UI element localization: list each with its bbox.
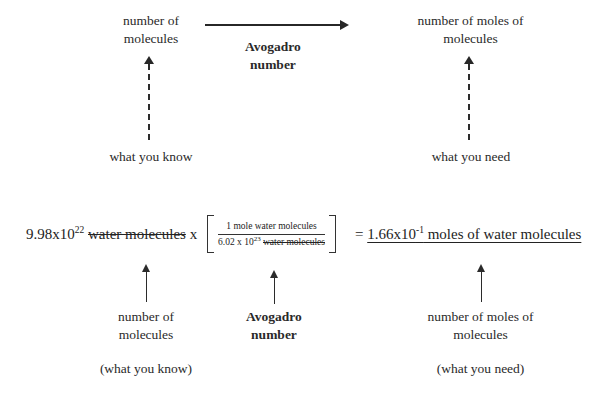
concept-relation-line2: number — [208, 56, 338, 74]
denominator-coefficient: 6.02 x 10 — [218, 237, 254, 247]
up-arrow-icon-known — [144, 56, 154, 64]
annotation-result-line2: molecules — [398, 326, 563, 344]
multiply-symbol: x — [190, 226, 198, 242]
up-arrow-icon-conversion — [270, 270, 278, 278]
annotation-given-line1: number of — [73, 308, 219, 326]
annotation-connector-conversion — [274, 278, 275, 304]
annotation-connector-result — [481, 272, 482, 302]
equation-given-term: 9.98x1022 water molecules x — [26, 226, 197, 243]
up-arrow-icon-result — [477, 264, 485, 272]
result-unit: moles of water molecules — [424, 226, 581, 242]
up-arrow-icon-given — [142, 264, 150, 272]
concept-source-label: number of molecules — [78, 12, 224, 48]
dashed-connector-needed — [468, 64, 470, 140]
conversion-factor: 1 mole water molecules 6.02 x 1023 water… — [207, 215, 336, 253]
annotation-conversion-label: Avogadro number — [209, 308, 339, 344]
annotation-given-label: number of molecules — [73, 308, 219, 344]
annotation-given-parenthetical: (what you know) — [73, 360, 219, 377]
annotation-result-line1: number of moles of — [398, 308, 563, 326]
annotation-connector-given — [146, 272, 147, 302]
bracket-right-icon — [329, 215, 336, 253]
result-exponent: -1 — [416, 225, 424, 235]
conversion-fraction: 1 mole water molecules 6.02 x 1023 water… — [214, 215, 329, 253]
bracket-left-icon — [207, 215, 214, 253]
given-coefficient: 9.98x10 — [26, 226, 75, 242]
concept-relation-label: Avogadro number — [208, 38, 338, 74]
diagram-canvas: number of molecules Avogadro number numb… — [0, 0, 612, 401]
fraction-numerator: 1 mole water molecules — [218, 220, 325, 234]
fraction-denominator: 6.02 x 1023 water molecules — [218, 235, 325, 249]
annotation-conversion-line2: number — [209, 326, 339, 344]
what-you-need-label: what you need — [398, 148, 544, 165]
annotation-result-label: number of moles of molecules — [398, 308, 563, 344]
concept-target-label: number of moles of molecules — [388, 12, 553, 48]
concept-target-line2: molecules — [388, 30, 553, 48]
concept-target-line1: number of moles of — [388, 12, 553, 30]
result-value: 1.66x10-1 moles of water molecules — [367, 226, 581, 242]
right-arrow-shaft — [205, 24, 341, 26]
concept-source-line2: molecules — [78, 30, 224, 48]
concept-source-line1: number of — [78, 12, 224, 30]
dashed-connector-known — [148, 64, 150, 140]
annotation-given-line2: molecules — [73, 326, 219, 344]
result-coefficient: 1.66x10 — [367, 226, 416, 242]
denominator-exponent: 23 — [254, 234, 261, 242]
equation-result-term: = 1.66x10-1 moles of water molecules — [355, 226, 581, 243]
concept-relation-line1: Avogadro — [208, 38, 338, 56]
annotation-conversion-line1: Avogadro — [209, 308, 339, 326]
what-you-know-label: what you know — [78, 148, 224, 165]
annotation-result-parenthetical: (what you need) — [398, 360, 563, 377]
equals-symbol: = — [355, 226, 363, 242]
given-exponent: 22 — [75, 225, 85, 235]
given-unit-cancelled: water molecules — [88, 226, 186, 242]
right-arrow-icon — [340, 20, 349, 30]
up-arrow-icon-needed — [464, 56, 474, 64]
denominator-unit-cancelled: water molecules — [263, 237, 325, 247]
